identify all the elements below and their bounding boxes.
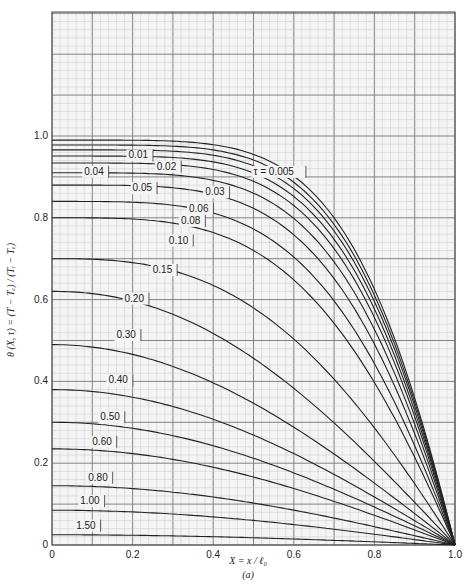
y-tick-label: 0.4 — [34, 375, 48, 386]
y-axis-label: θ (X, τ) = (T − Tₑ) / (Tᵢ − Tₑ) — [5, 242, 17, 357]
curve-label: τ = 0.005 — [254, 166, 295, 177]
y-tick-label: 0.8 — [34, 212, 48, 223]
curve-label: 0.08 — [181, 215, 201, 226]
curve-label: 0.20 — [125, 293, 145, 304]
temperature-distribution-chart: τ = 0.0050.010.020.040.050.030.060.080.1… — [0, 0, 472, 584]
curve-label: 0.60 — [92, 436, 112, 447]
curve-label: 0.10 — [169, 235, 189, 246]
curve-label: 0.06 — [189, 203, 209, 214]
curve-label: 0.04 — [84, 166, 104, 177]
figure-caption: (a) — [242, 569, 254, 581]
curve-label: 0.02 — [157, 161, 177, 172]
x-axis-label: X = x / ℓ₀ — [228, 555, 267, 566]
curve-label: 0.50 — [100, 411, 120, 422]
curve-label: 0.15 — [153, 264, 173, 275]
x-tick-label: 0.8 — [367, 549, 381, 560]
x-tick-label: 0.6 — [287, 549, 301, 560]
x-tick-label: 1.0 — [448, 549, 462, 560]
curve-label: 0.03 — [205, 186, 225, 197]
curve-label: 1.50 — [76, 520, 96, 531]
y-tick-label: 0.2 — [34, 457, 48, 468]
x-tick-label: 0 — [49, 549, 55, 560]
curve-label: 0.40 — [108, 374, 128, 385]
x-tick-label: 0.4 — [206, 549, 220, 560]
chart-grid — [52, 12, 455, 545]
y-tick-label: 0.6 — [34, 294, 48, 305]
y-tick-label: 0 — [42, 539, 48, 550]
curve-label: 0.05 — [133, 182, 153, 193]
curve-label: 0.01 — [129, 149, 149, 160]
curve-label: 0.30 — [116, 329, 136, 340]
x-tick-label: 0.2 — [126, 549, 140, 560]
curve-label: 1.00 — [80, 495, 100, 506]
y-tick-label: 1.0 — [34, 130, 48, 141]
curve-label: 0.80 — [88, 472, 108, 483]
